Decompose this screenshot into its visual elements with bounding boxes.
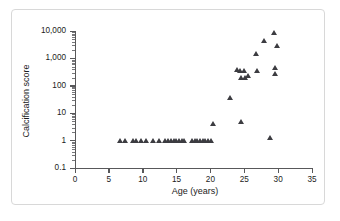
- x-tick-label: 20: [198, 175, 222, 184]
- data-point: [245, 73, 251, 78]
- y-tick-minor: [72, 37, 75, 38]
- data-point: [272, 65, 278, 70]
- data-point: [156, 138, 162, 143]
- y-tick-minor: [72, 105, 75, 106]
- y-tick-minor: [72, 117, 75, 118]
- y-tick-minor: [72, 97, 75, 98]
- y-tick-minor: [72, 69, 75, 70]
- y-tick-minor: [72, 50, 75, 51]
- y-tick-minor: [72, 42, 75, 43]
- x-tick-label: 0: [63, 175, 87, 184]
- y-tick-minor: [72, 145, 75, 146]
- x-tick-major: [278, 168, 279, 173]
- x-tick-major: [108, 168, 109, 173]
- y-tick-minor: [72, 128, 75, 129]
- x-tick-major: [176, 168, 177, 173]
- y-tick-minor: [72, 90, 75, 91]
- y-tick-minor: [72, 88, 75, 89]
- y-tick-minor: [72, 142, 75, 143]
- y-tick-minor: [72, 160, 75, 161]
- y-tick-minor: [72, 34, 75, 35]
- x-tick-major: [244, 168, 245, 173]
- data-point: [274, 43, 280, 48]
- data-point: [241, 68, 247, 73]
- x-tick-major: [312, 168, 313, 173]
- y-tick-minor: [72, 132, 75, 133]
- y-tick-minor: [72, 121, 75, 122]
- y-tick-minor: [72, 152, 75, 153]
- y-tick-minor: [72, 87, 75, 88]
- y-tick-minor: [72, 45, 75, 46]
- y-tick-minor: [72, 73, 75, 74]
- y-tick-label: 10,000: [22, 26, 66, 35]
- y-tick-minor: [72, 63, 75, 64]
- data-point: [210, 121, 216, 126]
- data-point: [143, 138, 149, 143]
- x-tick-major: [75, 168, 76, 173]
- data-point: [181, 138, 187, 143]
- y-tick-minor: [72, 149, 75, 150]
- y-tick-minor: [72, 61, 75, 62]
- x-tick-label: 35: [300, 175, 324, 184]
- x-tick-major: [210, 168, 211, 173]
- x-tick-label: 30: [266, 175, 290, 184]
- x-axis-line: [75, 168, 312, 169]
- y-tick-minor: [72, 124, 75, 125]
- y-tick-minor: [72, 147, 75, 148]
- x-tick-label: 25: [232, 175, 256, 184]
- y-tick-minor: [72, 35, 75, 36]
- data-point: [238, 119, 244, 124]
- x-tick-label: 15: [165, 175, 189, 184]
- data-point: [253, 51, 259, 56]
- x-axis-title: Age (years): [120, 186, 270, 196]
- scatter-plot: 0.11101001,00010,000 05101520253035 Calc…: [0, 0, 340, 221]
- data-point: [261, 38, 267, 43]
- y-tick-label: 0.1: [22, 163, 66, 172]
- y-tick-minor: [72, 114, 75, 115]
- y-tick-minor: [72, 64, 75, 65]
- data-point: [272, 71, 278, 76]
- y-tick-minor: [72, 78, 75, 79]
- y-tick-minor: [72, 143, 75, 144]
- y-tick-minor: [72, 119, 75, 120]
- data-point: [227, 95, 233, 100]
- y-axis-line: [75, 31, 76, 169]
- y-tick-minor: [72, 94, 75, 95]
- y-tick-minor: [72, 67, 75, 68]
- data-point: [254, 68, 260, 73]
- x-tick-major: [142, 168, 143, 173]
- y-tick-minor: [72, 155, 75, 156]
- y-tick-minor: [72, 32, 75, 33]
- y-axis-title: Calcification score: [21, 46, 31, 156]
- y-tick-minor: [72, 100, 75, 101]
- data-point: [208, 138, 214, 143]
- x-tick-label: 5: [97, 175, 121, 184]
- data-point: [122, 138, 128, 143]
- x-tick-label: 10: [131, 175, 155, 184]
- y-tick-minor: [72, 60, 75, 61]
- y-tick-minor: [72, 39, 75, 40]
- y-tick-minor: [72, 116, 75, 117]
- y-tick-minor: [72, 92, 75, 93]
- data-point: [271, 30, 277, 35]
- data-point: [267, 135, 273, 140]
